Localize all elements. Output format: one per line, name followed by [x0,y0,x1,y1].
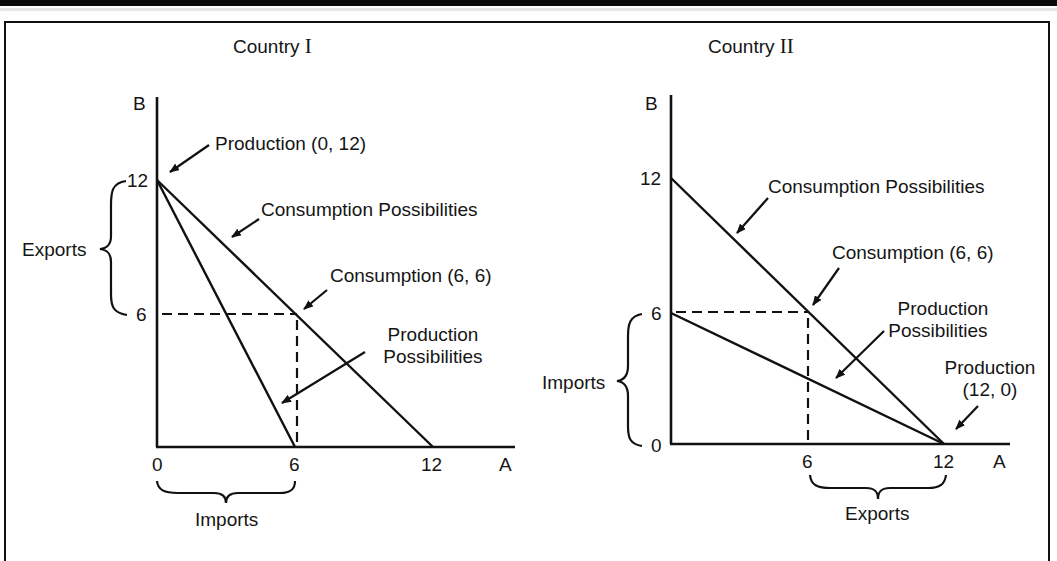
arrow-icon [836,331,884,378]
label-exports: Exports [845,503,909,524]
arrow-icon [304,290,327,309]
arrow-icon [232,219,259,237]
x-tick-12: 12 [933,451,954,472]
x-tick-0: 0 [152,454,163,475]
label-consumption-possibilities: Consumption Possibilities [261,199,478,220]
y-tick-0: 0 [651,435,662,456]
label-consumption-point: Consumption (6, 6) [330,265,492,286]
label-production-possibilities-line2: Possibilities [383,346,482,367]
arrow-icon [737,198,768,233]
y-axis-label: B [645,93,658,114]
label-imports: Imports [542,372,605,393]
label-production-point: Production (0, 12) [215,133,366,154]
exports-brace [810,475,946,499]
imports-brace [617,314,642,446]
label-exports: Exports [22,239,86,260]
x-tick-6: 6 [802,451,813,472]
label-consumption-point: Consumption (6, 6) [832,242,994,263]
label-production-possibilities-line2: Possibilities [888,320,987,341]
x-axis-label: A [993,451,1006,472]
exports-brace [100,181,127,315]
y-axis-label: B [133,93,146,114]
x-tick-6: 6 [289,454,300,475]
arrow-icon [813,268,839,305]
label-production-possibilities-line1: Production [388,324,479,345]
x-axis-label: A [499,454,512,475]
arrow-icon [956,406,978,429]
chart-country-2: Country II B A 12 6 0 6 12 Consumption P… [542,34,1035,524]
label-production-point-line2: (12, 0) [963,379,1018,400]
imports-brace [157,481,295,503]
y-tick-6: 6 [651,303,662,324]
chart-country-1: Country I B A 12 6 0 6 12 Production (0,… [22,34,515,530]
label-production-point-line1: Production [945,357,1036,378]
arrow-icon [170,145,209,172]
label-production-possibilities-line1: Production [898,298,989,319]
arrow-icon [282,352,365,403]
label-consumption-possibilities: Consumption Possibilities [768,176,985,197]
x-tick-12: 12 [421,454,442,475]
y-tick-12: 12 [127,170,148,191]
chart-title-country-1: Country I [233,34,312,58]
chart-title-country-2: Country II [708,34,794,58]
y-tick-6: 6 [136,304,147,325]
y-tick-12: 12 [640,168,661,189]
label-imports: Imports [195,509,258,530]
